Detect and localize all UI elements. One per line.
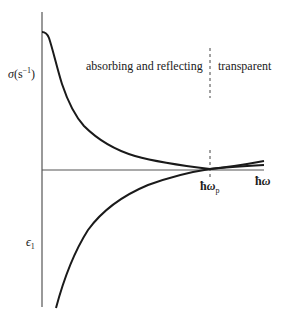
x-axis-label: ħω <box>255 174 271 188</box>
sigma-axis-label: σ(s−1) <box>8 66 35 81</box>
sigma-curve <box>42 32 264 169</box>
region-label-absorbing: absorbing and reflecting <box>86 59 203 73</box>
epsilon1-axis-label: ϵ1 <box>26 235 35 251</box>
region-label-transparent: transparent <box>218 59 272 73</box>
plasma-frequency-label: ħωp <box>200 179 219 195</box>
plot-canvas: absorbing and reflecting transparent σ(s… <box>0 0 285 321</box>
epsilon1-curve <box>56 165 264 308</box>
